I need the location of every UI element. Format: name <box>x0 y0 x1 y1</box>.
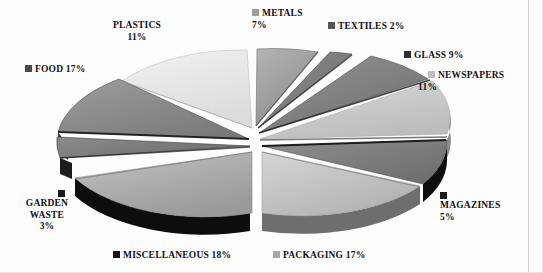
swatch-metals-icon <box>252 9 259 16</box>
swatch-miscellaneous-icon <box>113 251 120 258</box>
slice-gardenwaste <box>57 137 250 158</box>
label-garden-waste-pct: 3% <box>8 221 86 233</box>
label-miscellaneous-text: MISCELLANEOUS 18% <box>123 250 231 260</box>
label-newspapers-text: NEWSPAPERS <box>438 70 504 80</box>
pie-chart-figure: PLASTICS 11% FOOD 17% GARDEN WASTE 3% MI… <box>0 0 543 273</box>
label-metals-text: METALS <box>262 8 303 18</box>
swatch-packaging-icon <box>273 251 280 258</box>
label-packaging-text: PACKAGING 17% <box>283 250 365 260</box>
swatch-glass-icon <box>404 51 411 58</box>
slice-depth-gardenwaste <box>60 158 72 179</box>
label-metals: METALS 7% <box>252 8 303 31</box>
label-garden-waste-line2: WASTE <box>8 210 86 222</box>
label-metals-pct: 7% <box>252 20 303 32</box>
label-food-text: FOOD 17% <box>35 64 85 74</box>
right-border-line <box>528 0 529 273</box>
swatch-textiles-icon <box>328 22 335 29</box>
label-glass-text: GLASS 9% <box>414 50 463 60</box>
label-textiles: TEXTILES 2% <box>328 21 404 33</box>
label-magazines-text: MAGAZINES <box>440 200 500 212</box>
label-textiles-text: TEXTILES 2% <box>338 21 404 31</box>
label-newspapers-pct: 11% <box>418 82 504 94</box>
swatch-magazines-icon <box>440 192 447 199</box>
swatch-newspapers-icon <box>428 71 435 78</box>
label-magazines: MAGAZINES 5% <box>440 192 500 223</box>
label-plastics-text: PLASTICS <box>113 20 161 30</box>
label-packaging: PACKAGING 17% <box>273 250 365 262</box>
label-plastics: PLASTICS 11% <box>113 20 161 43</box>
label-magazines-pct: 5% <box>440 212 500 224</box>
label-miscellaneous: MISCELLANEOUS 18% <box>113 250 231 262</box>
label-glass: GLASS 9% <box>404 50 463 62</box>
swatch-garden-waste-icon <box>58 190 65 197</box>
label-garden-waste: GARDEN WASTE 3% <box>8 190 86 233</box>
label-food: FOOD 17% <box>25 64 85 76</box>
label-plastics-pct: 11% <box>113 32 161 44</box>
label-garden-waste-line1: GARDEN <box>8 198 86 210</box>
swatch-food-icon <box>25 65 32 72</box>
label-newspapers: NEWSPAPERS 11% <box>428 70 504 93</box>
